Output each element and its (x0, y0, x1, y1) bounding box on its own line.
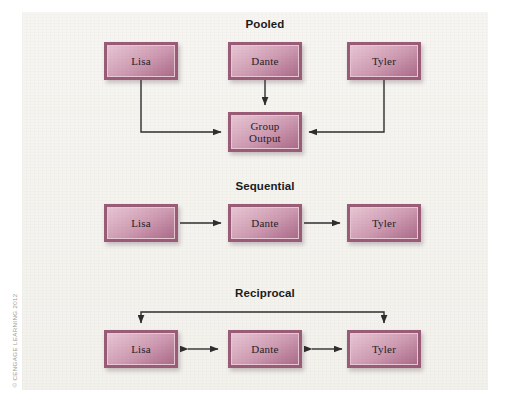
section-title-sequential: Sequential (235, 180, 294, 192)
node-pooled-tyler[interactable]: Tyler (347, 42, 421, 80)
wire-reciprocal-bracket-left (141, 312, 265, 323)
node-body: Tyler (350, 333, 418, 365)
node-label: Tyler (372, 343, 396, 355)
figure-root: Pooled Sequential Reciprocal (0, 0, 514, 415)
node-reciprocal-tyler[interactable]: Tyler (347, 330, 421, 368)
node-label: Group Output (249, 120, 281, 145)
node-label: Tyler (372, 55, 396, 67)
wire-reciprocal-bracket-right (265, 312, 384, 323)
copyright-credit: © CENGAGE LEARNING 2012 (11, 292, 18, 388)
node-body: Tyler (350, 45, 418, 77)
node-reciprocal-lisa[interactable]: Lisa (104, 330, 178, 368)
node-body: Tyler (350, 207, 418, 239)
wire-pooled-lisa-to-group (141, 80, 221, 132)
node-body: Group Output (231, 115, 299, 149)
wire-pooled-tyler-to-group (309, 80, 384, 132)
node-label: Dante (251, 55, 278, 67)
node-pooled-dante[interactable]: Dante (228, 42, 302, 80)
node-sequential-lisa[interactable]: Lisa (104, 204, 178, 242)
node-label: Dante (251, 217, 278, 229)
node-sequential-tyler[interactable]: Tyler (347, 204, 421, 242)
node-reciprocal-dante[interactable]: Dante (228, 330, 302, 368)
node-body: Dante (231, 333, 299, 365)
figure-canvas: Pooled Sequential Reciprocal (22, 12, 488, 390)
node-body: Lisa (107, 45, 175, 77)
node-label: Lisa (131, 217, 151, 229)
node-label: Lisa (131, 55, 151, 67)
node-body: Lisa (107, 333, 175, 365)
node-sequential-dante[interactable]: Dante (228, 204, 302, 242)
section-title-pooled: Pooled (246, 18, 285, 30)
node-label: Tyler (372, 217, 396, 229)
node-label: Lisa (131, 343, 151, 355)
node-pooled-lisa[interactable]: Lisa (104, 42, 178, 80)
section-title-reciprocal: Reciprocal (235, 287, 295, 299)
node-label: Dante (251, 343, 278, 355)
node-pooled-group-output[interactable]: Group Output (228, 112, 302, 152)
node-body: Lisa (107, 207, 175, 239)
node-body: Dante (231, 45, 299, 77)
node-body: Dante (231, 207, 299, 239)
